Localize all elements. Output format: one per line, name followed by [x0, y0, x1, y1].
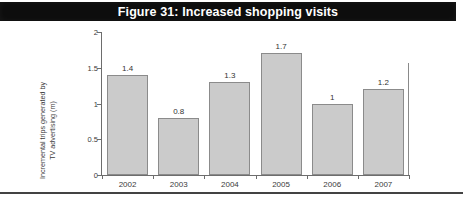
x-axis-tick-label: 2004: [204, 180, 255, 189]
y-axis-tick-label: 1: [78, 99, 98, 108]
plot-area: 1.40.81.31.711.2: [102, 32, 409, 175]
bar-value-label: 1.3: [209, 71, 250, 80]
x-axis-tick-mark: [358, 175, 359, 179]
x-axis-tick-label: 2002: [102, 180, 153, 189]
bar-value-label: 1: [312, 93, 353, 102]
page-bottom-rule: [0, 192, 463, 194]
y-axis-title-line-2: TV advertising (m): [47, 56, 57, 200]
bar[interactable]: [209, 82, 250, 175]
x-axis-tick-mark: [307, 175, 308, 179]
figure-title: Figure 31: Increased shopping visits: [0, 5, 456, 19]
y-axis-tick-label: 0: [78, 171, 98, 180]
x-axis-tick-mark: [153, 175, 154, 179]
bar-value-label: 1.2: [363, 78, 404, 87]
y-axis-tick-mark: [97, 68, 101, 69]
y-axis-title: Incremental trips generated by TV advert…: [38, 56, 57, 200]
bar[interactable]: [363, 89, 404, 175]
y-axis-tick-label: 1.5: [78, 63, 98, 72]
bar-value-label: 1.7: [261, 42, 302, 51]
bar-group: 0.8: [158, 32, 199, 175]
x-axis-tick-mark: [102, 175, 103, 179]
x-axis-tick-label: 2005: [256, 180, 307, 189]
y-axis-tick-label: 2: [78, 28, 98, 37]
x-axis-tick-label: 2003: [153, 180, 204, 189]
bar-value-label: 0.8: [158, 107, 199, 116]
x-axis-tick-mark: [204, 175, 205, 179]
bar-group: 1.3: [209, 32, 250, 175]
y-axis-tick-mark: [97, 175, 101, 176]
figure-title-banner: Figure 31: Increased shopping visits: [0, 2, 456, 21]
x-axis-tick-mark: [256, 175, 257, 179]
y-axis-tick-mark: [97, 32, 101, 33]
bar[interactable]: [107, 75, 148, 175]
x-axis-tick-label: 2006: [307, 180, 358, 189]
x-axis-tick-mark: [409, 175, 410, 179]
y-axis-tick-mark: [97, 104, 101, 105]
y-axis-tick-mark: [97, 139, 101, 140]
bar-group: 1.7: [261, 32, 302, 175]
y-axis-tick-labels: 00.511.52: [76, 21, 98, 193]
bar-chart: Incremental trips generated by TV advert…: [0, 21, 463, 193]
y-axis-title-line-1: Incremental trips generated by: [38, 56, 48, 200]
x-axis-tick-label: 2007: [358, 180, 409, 189]
bar-value-label: 1.4: [107, 64, 148, 73]
bar-group: 1.4: [107, 32, 148, 175]
bar[interactable]: [158, 118, 199, 175]
bar-group: 1: [312, 32, 353, 175]
bar[interactable]: [312, 104, 353, 176]
y-axis-tick-label: 0.5: [78, 135, 98, 144]
bar-group: 1.2: [363, 32, 404, 175]
bar[interactable]: [261, 53, 302, 175]
